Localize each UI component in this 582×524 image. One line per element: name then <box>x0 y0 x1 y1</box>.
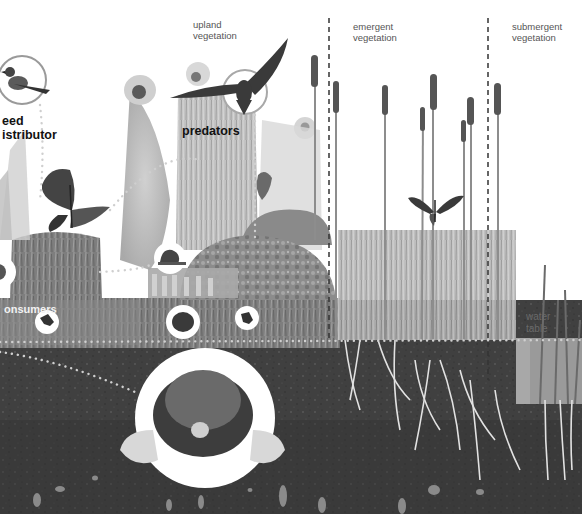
zone-label-upland-line1: upland <box>193 19 237 30</box>
water-table-label: water table <box>526 311 550 335</box>
zone-label-submergent-line2: vegetation <box>512 32 562 43</box>
zone-label-submergent: submergent vegetation <box>512 21 562 43</box>
zone-label-submergent-line1: submergent <box>512 21 562 32</box>
water-table-line1: water <box>526 311 550 323</box>
toad-icon <box>172 312 194 332</box>
water-zone <box>516 338 582 404</box>
consumer-frog-circle-right <box>235 306 259 330</box>
zone-label-upland-line2: vegetation <box>193 30 237 41</box>
swallowtail-butterfly-icon <box>408 196 464 226</box>
consumers-label: onsumers <box>4 303 57 315</box>
seed-distributor-label: eed istributor <box>2 114 57 142</box>
seed-distributor-line2: istributor <box>2 128 57 142</box>
cattail-heads <box>311 55 501 142</box>
diagram-illustration <box>0 0 582 524</box>
zone-label-upland: upland vegetation <box>193 19 237 41</box>
zone-label-emergent-line2: vegetation <box>353 32 397 43</box>
seed-distributor-circle <box>0 56 50 104</box>
zone-label-emergent: emergent vegetation <box>353 21 397 43</box>
consumer-toad-circle <box>166 305 200 339</box>
zone-label-emergent-line1: emergent <box>353 21 397 32</box>
consumer-snail-circle <box>154 242 186 274</box>
bottom-border <box>0 514 582 524</box>
wetland-diagram: upland vegetation emergent vegetation su… <box>0 0 582 524</box>
seed-distributor-line1: eed <box>2 114 57 128</box>
monarch-butterfly-icon <box>42 169 110 232</box>
predators-label: predators <box>182 124 240 138</box>
water-table-line2: table <box>526 323 550 335</box>
